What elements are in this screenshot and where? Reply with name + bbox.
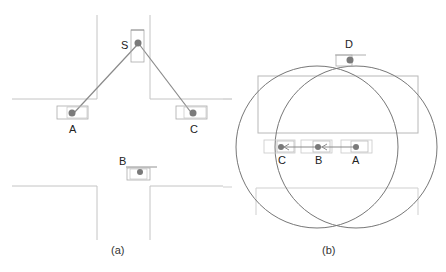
caption-a: (a) <box>111 244 124 256</box>
link-S-C <box>139 44 193 115</box>
label-A-b: A <box>352 154 360 166</box>
node-C-icon[interactable] <box>278 144 284 150</box>
node-icon <box>135 40 142 47</box>
label-D: D <box>345 38 353 50</box>
caption-b: (b) <box>322 244 335 256</box>
node-icon <box>69 110 76 117</box>
link-S-A <box>72 44 138 115</box>
node-icon <box>190 110 197 117</box>
vehicle-B[interactable] <box>126 167 157 180</box>
label-A: A <box>69 123 77 135</box>
vehicle-D[interactable] <box>335 55 366 66</box>
diagram-canvas: S A C B (a) D C B A (b) <box>0 0 446 272</box>
panel-a-links <box>72 44 193 115</box>
vehicle-A[interactable] <box>57 106 88 119</box>
label-B: B <box>119 155 126 167</box>
node-icon <box>137 169 143 175</box>
vehicle-S[interactable] <box>131 30 144 62</box>
label-S: S <box>121 39 128 51</box>
node-icon <box>347 57 354 64</box>
label-B-b: B <box>315 154 322 166</box>
label-C-b: C <box>278 154 286 166</box>
node-B-icon[interactable] <box>315 144 321 150</box>
label-C: C <box>190 123 198 135</box>
vehicle-C[interactable] <box>176 106 207 119</box>
node-A-icon[interactable] <box>353 144 359 150</box>
